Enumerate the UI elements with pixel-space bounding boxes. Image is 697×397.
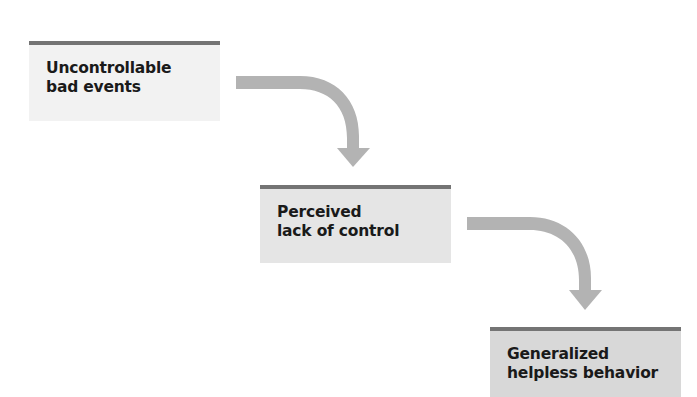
node-perceived-lack-of-control: Perceived lack of control bbox=[260, 185, 451, 263]
node-generalized-helpless-behavior: Generalized helpless behavior bbox=[490, 327, 681, 397]
node-label-line: bad events bbox=[46, 78, 210, 97]
arrow-1 bbox=[236, 76, 370, 167]
node-label-line: Generalized bbox=[507, 345, 671, 364]
arrow-2 bbox=[467, 217, 602, 310]
node-label-line: helpless behavior bbox=[507, 364, 671, 383]
node-label-line: Perceived bbox=[277, 203, 441, 222]
node-label-line: lack of control bbox=[277, 222, 441, 241]
node-uncontrollable-bad-events: Uncontrollable bad events bbox=[29, 41, 220, 121]
node-label-line: Uncontrollable bbox=[46, 59, 210, 78]
